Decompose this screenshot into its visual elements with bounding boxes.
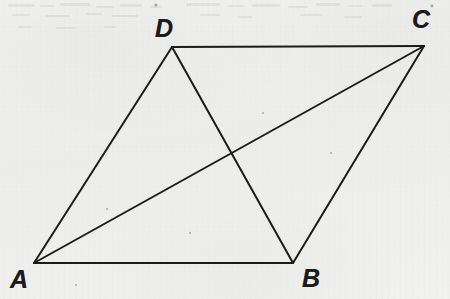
side-BC bbox=[293, 46, 424, 263]
side-CD bbox=[172, 46, 424, 47]
diagonal-AC bbox=[34, 46, 424, 263]
side-DA bbox=[34, 47, 172, 263]
vertex-label-C: C bbox=[412, 7, 430, 32]
vertex-label-A: A bbox=[10, 267, 28, 292]
vertex-label-D: D bbox=[155, 16, 173, 41]
parallelogram-drawing bbox=[0, 0, 450, 299]
diagonal-DB bbox=[172, 47, 293, 263]
geometry-figure: D C A B bbox=[0, 0, 450, 299]
vertex-label-B: B bbox=[302, 266, 320, 291]
